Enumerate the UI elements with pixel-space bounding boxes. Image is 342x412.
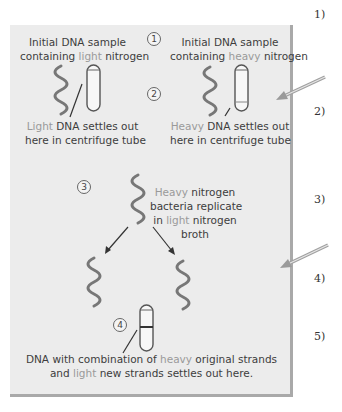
centrifuge-tube-hybrid-icon xyxy=(140,305,153,351)
pointer-arrow-2 xyxy=(276,77,325,100)
dna-helix-icon xyxy=(88,258,100,306)
pointer-line xyxy=(70,84,82,117)
pointer-arrow-4 xyxy=(280,245,328,268)
branch-arrow-left xyxy=(105,227,128,254)
branch-arrow-right xyxy=(153,227,175,255)
pointer-line xyxy=(225,108,230,116)
pointer-line xyxy=(123,330,137,353)
dna-helix-icon xyxy=(177,261,189,309)
dna-helix-icon xyxy=(132,175,144,223)
dna-helix-icon xyxy=(55,66,67,114)
centrifuge-tube-heavy-icon xyxy=(235,65,248,111)
dna-helix-icon xyxy=(204,67,216,115)
centrifuge-tube-light-icon xyxy=(87,65,100,111)
diagram-graphics xyxy=(0,0,342,412)
